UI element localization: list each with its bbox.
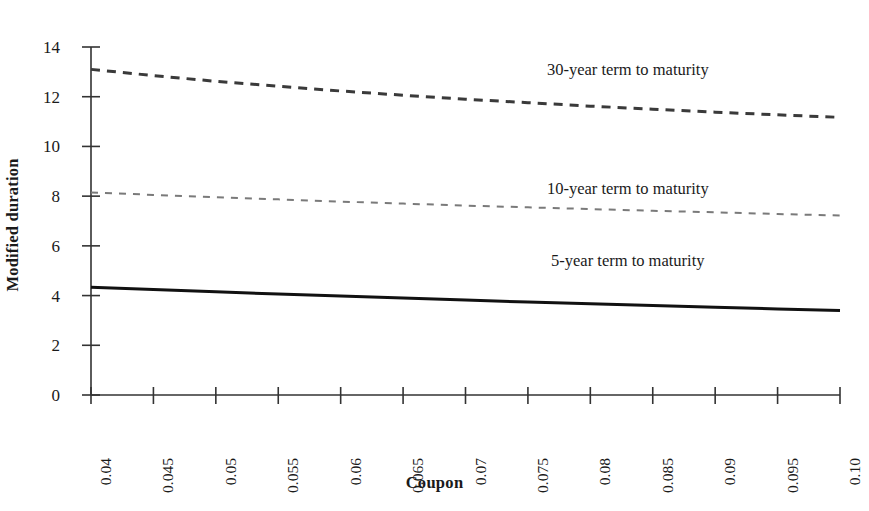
- y-axis-title: Modified duration: [3, 135, 23, 315]
- series-line-1: [91, 192, 840, 215]
- x-tick-label: 0.08: [597, 458, 613, 485]
- x-tick-label: 0.095: [785, 458, 801, 493]
- x-tick-label: 0.045: [160, 458, 176, 493]
- series-line-0: [91, 69, 840, 117]
- series-annotation: 10-year term to maturity: [547, 181, 709, 198]
- x-tick-label: 0.04: [98, 458, 114, 485]
- x-tick-label: 0.09: [722, 458, 738, 485]
- duration-coupon-chart: Modified duration Coupon 02468101214 0.0…: [0, 0, 869, 511]
- x-tick-label: 0.065: [410, 458, 426, 493]
- y-tick-label: 0: [26, 387, 60, 404]
- y-tick-label: 10: [26, 138, 60, 155]
- x-axis-title: Coupon: [0, 473, 869, 493]
- series-lines: [91, 69, 840, 310]
- x-tick-label: 0.075: [535, 458, 551, 493]
- y-tick-label: 8: [26, 188, 60, 205]
- y-tick-label: 14: [26, 39, 60, 56]
- x-tick-label: 0.07: [473, 458, 489, 485]
- x-tick-label: 0.085: [660, 458, 676, 493]
- series-annotation: 30-year term to maturity: [547, 62, 709, 79]
- series-annotation: 5-year term to maturity: [551, 253, 705, 270]
- x-tick-label: 0.06: [348, 458, 364, 485]
- x-tick-label: 0.05: [223, 458, 239, 485]
- series-line-2: [91, 287, 840, 310]
- x-tick-label: 0.10: [847, 458, 863, 485]
- y-tick-label: 4: [26, 287, 60, 304]
- axes: [82, 47, 840, 404]
- y-tick-label: 2: [26, 337, 60, 354]
- y-tick-label: 12: [26, 88, 60, 105]
- y-tick-label: 6: [26, 237, 60, 254]
- x-tick-label: 0.055: [285, 458, 301, 493]
- plot-area: [0, 0, 869, 511]
